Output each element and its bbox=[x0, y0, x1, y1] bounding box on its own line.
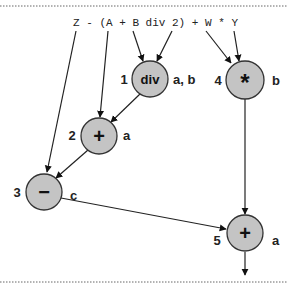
node-registers: c bbox=[70, 188, 77, 203]
edge-a-to-node2 bbox=[100, 31, 108, 117]
node-op: * bbox=[240, 69, 250, 96]
node-registers: a bbox=[272, 233, 280, 248]
node-4-multiply: * 4 b bbox=[214, 61, 280, 99]
expression-text: Z - (A + B div 2) + W * Y bbox=[73, 17, 238, 29]
node-order: 1 bbox=[120, 72, 127, 87]
edge-w-to-node4 bbox=[206, 31, 231, 63]
node-op: − bbox=[38, 181, 50, 203]
node-order: 4 bbox=[214, 73, 222, 88]
node-3-minus: − 3 c bbox=[13, 174, 77, 210]
edge-node2-to-node3 bbox=[56, 150, 88, 178]
node-registers: b bbox=[272, 73, 280, 88]
node-op: + bbox=[239, 222, 251, 244]
edge-y-to-node4 bbox=[234, 31, 239, 61]
expression-tree-diagram: Z - (A + B div 2) + W * Y div 1 a, b + 2… bbox=[0, 0, 288, 287]
node-registers: a, b bbox=[173, 72, 195, 87]
node-order: 5 bbox=[213, 233, 220, 248]
edge-2-to-node1 bbox=[157, 31, 172, 61]
node-2-plus: + 2 a bbox=[68, 118, 131, 154]
node-op: div bbox=[141, 72, 161, 87]
node-order: 3 bbox=[13, 185, 20, 200]
edge-node3-to-node5 bbox=[61, 198, 226, 229]
node-registers: a bbox=[123, 128, 131, 143]
edge-b-to-node1 bbox=[133, 31, 143, 61]
node-order: 2 bbox=[68, 128, 75, 143]
edge-node1-to-node2 bbox=[111, 94, 140, 122]
node-1-div: div 1 a, b bbox=[120, 61, 195, 97]
node-5-plus: + 5 a bbox=[213, 215, 280, 251]
edge-z-to-node3 bbox=[47, 31, 76, 172]
node-op: + bbox=[93, 125, 105, 147]
